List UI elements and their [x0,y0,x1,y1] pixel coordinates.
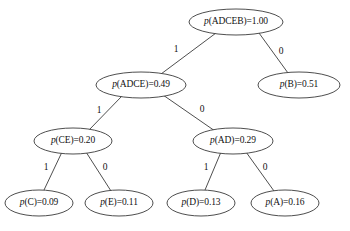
edge-bit-label-ce-e: 0 [103,163,108,173]
edge-bit-label-adce-ce: 1 [97,106,102,116]
tree-node-label-ad: p(AD)=0.29 [210,136,256,146]
edge-bit-label-ad-a: 0 [263,163,268,173]
probability-expression-c: (C)=0.09 [24,197,58,207]
tree-node-label-c: p(C)=0.09 [20,198,59,208]
probability-expression-root: (ADCEB)=1.00 [209,16,268,26]
tree-edge-root-b [259,33,288,73]
tree-edge-ad-a [246,152,274,191]
tree-edge-adce-ce [89,96,122,130]
tree-node-label-e: p(E)=0.11 [100,198,138,208]
tree-node-label-adce: p(ADCE)=0.49 [112,80,170,90]
nodes-group [5,9,340,216]
probability-expression-adce: (ADCE)=0.49 [117,79,170,89]
edge-bit-label-adce-ad: 0 [200,105,205,115]
probability-expression-d: (D)=0.13 [186,197,220,207]
tree-edge-root-adce [161,33,216,74]
edge-bit-label-ce-c: 1 [44,163,49,173]
edge-bit-label-root-b: 0 [279,47,284,57]
tree-node-label-b: p(B)=0.51 [280,80,319,90]
probability-expression-b: (B)=0.51 [284,79,318,89]
tree-node-label-d: p(D)=0.13 [181,198,220,208]
probability-expression-a: (A)=0.16 [270,197,304,207]
tree-node-label-root: p(ADCEB)=1.00 [204,17,268,27]
probability-expression-ad: (AD)=0.29 [215,135,256,145]
tree-edge-adce-ad [163,95,215,131]
edge-bit-label-root-adce: 1 [174,45,179,55]
tree-node-label-ce: p(CE)=0.20 [51,136,95,146]
huffman-tree-diagram: 10101010p(ADCEB)=1.00p(ADCE)=0.49p(B)=0.… [0,0,350,231]
probability-expression-ce: (CE)=0.20 [56,135,96,145]
edges-group [44,33,288,191]
tree-node-label-a: p(A)=0.16 [265,198,304,208]
probability-expression-e: (E)=0.11 [105,197,138,207]
edge-bit-label-ad-d: 1 [204,163,209,173]
